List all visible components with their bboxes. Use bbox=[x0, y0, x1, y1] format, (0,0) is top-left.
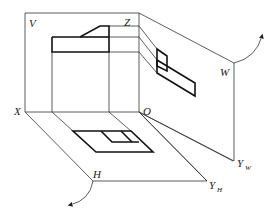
label-yw: Y bbox=[237, 157, 245, 169]
projection-lines bbox=[52, 26, 233, 181]
label-z: Z bbox=[124, 16, 131, 28]
label-yh-sub: H bbox=[216, 186, 223, 194]
label-w: W bbox=[220, 66, 230, 78]
v-plane bbox=[25, 13, 139, 112]
w-plane bbox=[139, 13, 234, 161]
label-v: V bbox=[29, 17, 37, 29]
projection-diagram: V Z W O X H Y W Y H bbox=[0, 0, 270, 215]
w-rotation-arrow-icon bbox=[234, 36, 262, 63]
label-yw-sub: W bbox=[245, 164, 252, 172]
side-view bbox=[157, 49, 195, 96]
label-x: X bbox=[13, 105, 22, 117]
label-yh: Y bbox=[209, 179, 217, 191]
h-plane bbox=[25, 112, 207, 181]
front-view bbox=[52, 26, 109, 52]
h-rotation-arrow-icon bbox=[70, 181, 93, 205]
label-o: O bbox=[143, 105, 151, 117]
label-h: H bbox=[92, 168, 102, 180]
top-view bbox=[73, 131, 153, 152]
